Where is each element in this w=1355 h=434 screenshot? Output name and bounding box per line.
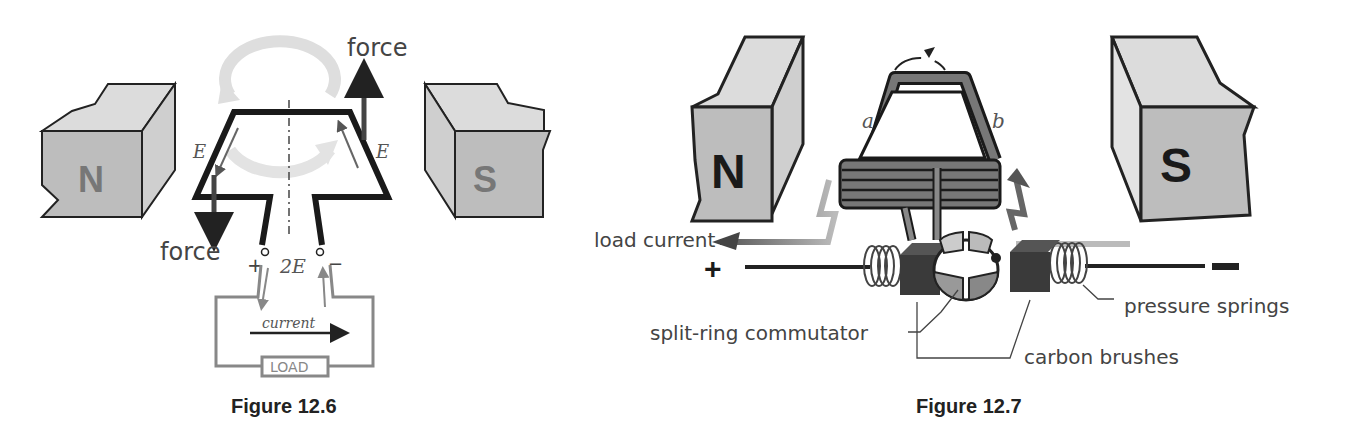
split-ring-commutator-label: split-ring commutator — [650, 321, 869, 345]
force-label-bottom: force — [160, 238, 220, 266]
figure-12-7: N S a b — [594, 37, 1289, 417]
coil-loop — [196, 112, 388, 245]
split-ring-commutator — [934, 232, 1001, 300]
emf-label-left: E — [192, 141, 206, 162]
north-magnet: N — [692, 37, 803, 221]
emf-arrow-right-icon — [340, 125, 358, 168]
north-magnet: N — [42, 84, 175, 217]
load-label: LOAD — [270, 359, 308, 375]
south-pole-label: S — [1160, 139, 1192, 192]
armature-coil — [840, 78, 1000, 240]
minus-terminal — [1212, 263, 1239, 270]
north-pole-label: N — [78, 159, 104, 200]
load-current-arrow-icon — [712, 232, 740, 250]
north-pole-label: N — [711, 145, 746, 198]
side-a-label: a — [862, 109, 874, 133]
terminal-minus — [317, 249, 324, 256]
figure-caption: Figure 12.6 — [231, 395, 337, 417]
load-current-label: load current — [594, 228, 715, 252]
side-b-label: b — [992, 109, 1005, 133]
figure-caption: Figure 12.7 — [916, 395, 1022, 417]
carbon-brushes-label: carbon brushes — [1024, 345, 1179, 369]
emf-label-right: E — [375, 141, 389, 162]
pressure-springs-label: pressure springs — [1124, 294, 1289, 318]
south-magnet: S — [1112, 37, 1254, 221]
current-arrow-in-icon — [323, 272, 325, 307]
force-label-top: force — [347, 34, 407, 62]
south-magnet: S — [425, 84, 550, 217]
south-pole-label: S — [473, 159, 497, 200]
plus-terminal: + — [704, 252, 722, 285]
rotation-arrow-icon — [218, 41, 338, 172]
right-carbon-brush — [1010, 252, 1050, 292]
right-spring — [1050, 243, 1087, 283]
terminal-voltage-label: 2E — [279, 255, 306, 277]
current-label: current — [262, 315, 316, 331]
figure-12-6: N S force force E E + — [42, 34, 550, 417]
